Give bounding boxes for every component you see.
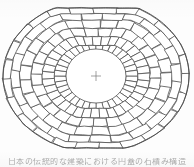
- figure-root: 日本の伝統的な建築における円蓋の石積み構造: [0, 0, 194, 167]
- figure-caption: 日本の伝統的な建築における円蓋の石積み構造: [8, 158, 187, 166]
- voussoir-ring2-seg6: [93, 118, 108, 127]
- voussoir-ring3-seg19: [100, 20, 118, 28]
- dome-diagram: [0, 0, 194, 167]
- voussoir-ring3-seg17: [65, 20, 84, 29]
- voussoir-ring1-seg26: [92, 37, 102, 46]
- voussoir-ring2-seg13: [30, 73, 42, 85]
- voussoir-ring3-seg18: [82, 20, 101, 29]
- voussoir-ring5-seg4: [98, 142, 123, 148]
- voussoir-ring4-seg5: [90, 135, 112, 143]
- voussoir-ring5-seg17: [93, 8, 118, 14]
- caption-strip: 日本の伝統的な建築における円蓋の石積み構造: [0, 158, 194, 167]
- voussoir-ring2-seg20: [84, 28, 99, 37]
- voussoir-ring1-seg35: [138, 73, 150, 81]
- voussoir-ring4-seg11: [10, 70, 20, 89]
- voussoir-ring3-seg5: [91, 126, 110, 136]
- voussoir-ring3-seg25: [160, 72, 173, 87]
- voussoir-ring4-seg23: [170, 64, 181, 83]
- voussoir-ring3-seg12: [19, 65, 32, 80]
